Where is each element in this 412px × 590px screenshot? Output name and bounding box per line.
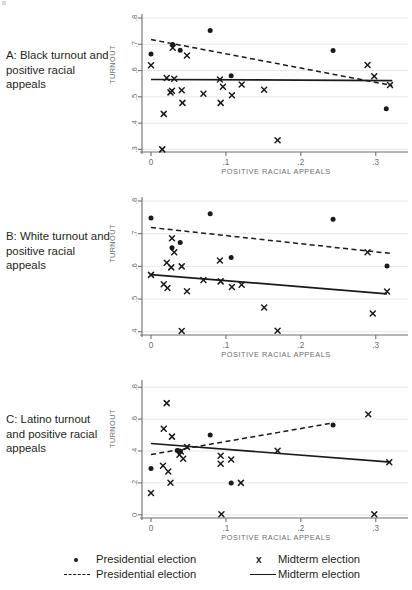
- svg-text:.3: .3: [130, 146, 139, 152]
- svg-text:.8: .8: [130, 198, 139, 204]
- legend-key-midterm-line: [248, 567, 278, 582]
- svg-text:.2: .2: [130, 480, 139, 486]
- legend-key-midterm-marker: x: [248, 552, 278, 567]
- svg-text:.8: .8: [130, 384, 139, 390]
- dashed-line-icon: [64, 574, 90, 575]
- svg-text:.3: .3: [372, 158, 379, 167]
- svg-text:.1: .1: [222, 341, 229, 350]
- panel-b: B: White turnout and positive racial app…: [0, 185, 412, 367]
- panel-b-svg: .4.5.6.7.80.1.2.3POSITIVE RACIAL APPEALS: [112, 189, 408, 365]
- legend-key-presidential-line: [62, 567, 96, 582]
- panel-a: A: Black turnout and positive racial app…: [0, 2, 412, 184]
- svg-text:.6: .6: [130, 67, 139, 73]
- svg-text:.2: .2: [297, 158, 304, 167]
- legend-label-presidential-line: Presidential election: [96, 567, 248, 582]
- svg-text:0: 0: [130, 513, 139, 517]
- panel-c-caption: C: Latino turnout and positive racial ap…: [6, 412, 110, 456]
- svg-text:.8: .8: [130, 15, 139, 21]
- svg-text:.4: .4: [130, 329, 139, 335]
- svg-text:.7: .7: [130, 41, 139, 47]
- legend-label-midterm-line: Midterm election: [278, 567, 412, 582]
- solid-line-icon: [250, 574, 276, 575]
- panel-a-caption: A: Black turnout and positive racial app…: [6, 48, 110, 92]
- svg-text:.6: .6: [130, 416, 139, 422]
- panel-b-caption: B: White turnout and positive racial app…: [6, 229, 110, 273]
- svg-text:POSITIVE RACIAL APPEALS: POSITIVE RACIAL APPEALS: [221, 350, 330, 359]
- svg-text:POSITIVE RACIAL APPEALS: POSITIVE RACIAL APPEALS: [221, 533, 330, 542]
- circle-marker-icon: [74, 558, 78, 562]
- svg-text:.4: .4: [130, 448, 139, 454]
- svg-text:.2: .2: [297, 341, 304, 350]
- cross-marker-icon: x: [256, 553, 262, 566]
- svg-text:.1: .1: [222, 524, 229, 533]
- svg-text:.6: .6: [130, 263, 139, 269]
- svg-text:.2: .2: [297, 524, 304, 533]
- panel-c-svg: 0.2.4.6.80.1.2.3POSITIVE RACIAL APPEALS: [112, 372, 408, 548]
- legend-label-midterm-marker: Midterm election: [278, 552, 412, 567]
- panel-c: C: Latino turnout and positive racial ap…: [0, 368, 412, 550]
- legend-key-presidential-marker: [62, 552, 96, 567]
- legend-label-presidential-marker: Presidential election: [96, 552, 248, 567]
- svg-text:0: 0: [149, 341, 154, 350]
- panel-c-plot: TURNOUT 0.2.4.6.80.1.2.3POSITIVE RACIAL …: [112, 372, 408, 548]
- panel-b-plot: TURNOUT .4.5.6.7.80.1.2.3POSITIVE RACIAL…: [112, 189, 408, 365]
- svg-text:0: 0: [149, 158, 154, 167]
- svg-text:.3: .3: [372, 341, 379, 350]
- svg-text:.5: .5: [130, 296, 139, 302]
- svg-text:.7: .7: [130, 231, 139, 237]
- svg-text:POSITIVE RACIAL APPEALS: POSITIVE RACIAL APPEALS: [221, 167, 330, 176]
- panel-a-plot: TURNOUT .3.4.5.6.7.80.1.2.3POSITIVE RACI…: [112, 6, 408, 182]
- figure-legend: Presidential election x Midterm election…: [0, 552, 412, 586]
- svg-text:.3: .3: [372, 524, 379, 533]
- svg-text:.5: .5: [130, 94, 139, 100]
- figure-root: A: Black turnout and positive racial app…: [0, 0, 412, 590]
- svg-text:.1: .1: [222, 158, 229, 167]
- svg-text:.4: .4: [130, 120, 139, 126]
- svg-text:0: 0: [149, 524, 154, 533]
- panel-a-svg: .3.4.5.6.7.80.1.2.3POSITIVE RACIAL APPEA…: [112, 6, 408, 182]
